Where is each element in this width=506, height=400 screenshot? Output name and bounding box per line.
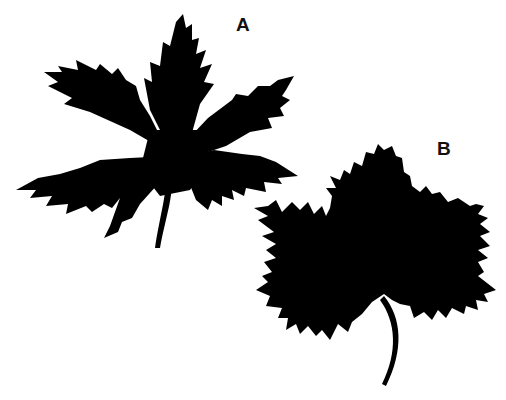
leaf-a-label: A [236, 15, 250, 34]
leaf-b-label: B [437, 139, 451, 158]
leaf-a-silhouette [16, 14, 298, 248]
leaf-silhouettes [0, 0, 506, 400]
leaf-comparison-figure: A B [0, 0, 506, 400]
leaf-b-silhouette [254, 144, 496, 386]
